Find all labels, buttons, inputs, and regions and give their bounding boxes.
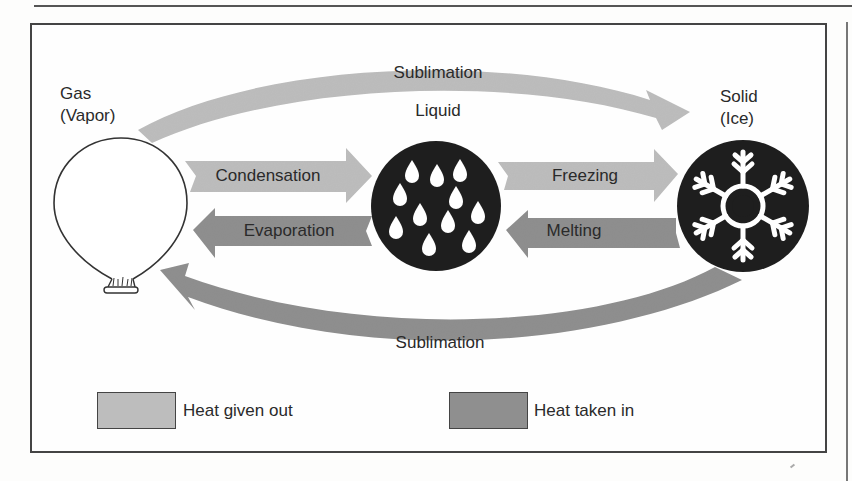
water-drops-icon [371, 141, 501, 271]
gas-label-line2: (Vapor) [60, 105, 115, 127]
freezing-label: Freezing [552, 166, 618, 186]
arrow-sublimation-bottom [160, 263, 742, 341]
liquid-label: Liquid [415, 101, 460, 121]
legend-swatch-heat-given-out [97, 392, 176, 429]
sublimation-top-label: Sublimation [394, 63, 483, 83]
gas-label-line1: Gas [60, 83, 115, 105]
solid-label-line2: (Ice) [720, 108, 758, 130]
evaporation-label: Evaporation [244, 221, 335, 241]
melting-label: Melting [547, 221, 602, 241]
legend-label-heat-given-out: Heat given out [183, 401, 293, 421]
snowflake-icon [677, 140, 809, 272]
legend-swatch-heat-taken-in [449, 392, 528, 429]
legend-label-heat-taken-in: Heat taken in [534, 401, 634, 421]
solid-label: Solid (Ice) [720, 86, 758, 130]
solid-label-line1: Solid [720, 86, 758, 108]
condensation-label: Condensation [216, 166, 321, 186]
gas-label: Gas (Vapor) [60, 83, 115, 127]
sublimation-bottom-label: Sublimation [396, 333, 485, 353]
